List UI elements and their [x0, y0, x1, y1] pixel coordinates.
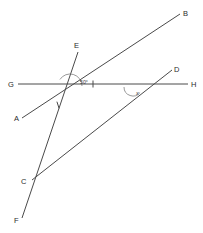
line-a-b [22, 14, 180, 118]
point-label-f: F [14, 216, 19, 225]
point-label-c: C [21, 177, 27, 186]
point-label-h: H [191, 80, 196, 89]
angle-labels-group: 50° x [80, 79, 139, 96]
angle-label-x: x [135, 90, 139, 96]
point-label-g: G [8, 80, 14, 89]
point-label-a: A [14, 114, 19, 123]
point-labels-group: B E D G H A C F [8, 9, 196, 225]
geometry-canvas: 50° x B E D G H A C F [0, 0, 203, 233]
point-label-b: B [183, 9, 188, 18]
point-label-d: D [174, 65, 180, 74]
geometry-figure: 50° x B E D G H A C F [0, 0, 203, 233]
angle-label-50-degrees: 50° [80, 79, 88, 85]
lines-group [18, 14, 188, 218]
point-label-e: E [74, 41, 79, 50]
line-e-f [22, 52, 78, 218]
tick-mark-on-ef [57, 102, 59, 109]
